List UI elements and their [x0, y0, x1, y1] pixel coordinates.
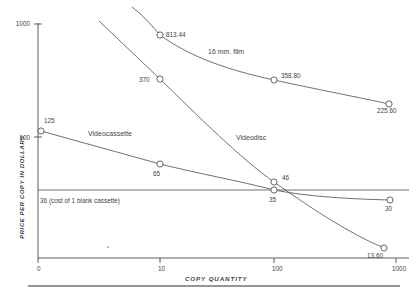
videocassette-point-10	[157, 161, 163, 167]
film-point-label-100: 358.80	[281, 72, 301, 79]
videodisc-point-label-10: 370	[139, 76, 150, 83]
x-tick-label-0: 0	[37, 265, 41, 272]
x-tick-label-1000: 1000	[392, 265, 407, 272]
videodisc-point-10	[157, 76, 163, 82]
y-axis-title: PRICE PER COPY IN DOLLARS	[19, 135, 25, 239]
videodisc-point-label-100: 46	[282, 174, 290, 181]
figure-container: 1000 100 0 10 100 1000 COPY QUANTITY PRI…	[0, 0, 417, 292]
film-point-label-1000: 225.60	[377, 107, 397, 114]
videocassette-point-label-0: 125	[44, 117, 55, 124]
videodisc-series-label: Videodisc	[236, 134, 267, 141]
axis-group	[34, 23, 409, 263]
series-videodisc: 370 46 13.60 Videodisc	[99, 21, 387, 259]
y-tick-label-1000: 1000	[16, 20, 31, 27]
videodisc-point-label-1000: 13.60	[367, 252, 383, 259]
film-point-100	[271, 77, 277, 83]
x-tick-label-10: 10	[158, 265, 166, 272]
videocassette-point-1000	[387, 197, 393, 203]
videodisc-point-100	[271, 179, 277, 185]
videocassette-point-label-1000: 30	[385, 205, 393, 212]
videocassette-point-0	[38, 128, 44, 134]
stray-speck	[107, 246, 109, 248]
film-point-label-10: 813.44	[166, 31, 186, 38]
x-axis-title: COPY QUANTITY	[185, 275, 247, 282]
film-series-label: 16 mm. film	[208, 48, 244, 55]
reference-line-label: 36 (cost of 1 blank cassette)	[40, 197, 120, 205]
series-16mm-film: 813.44 358.80 225.60 16 mm. film	[132, 7, 397, 114]
x-tick-label-100: 100	[272, 265, 283, 272]
videocassette-series-label: Videocassette	[88, 130, 132, 137]
cost-comparison-chart: 1000 100 0 10 100 1000 COPY QUANTITY PRI…	[0, 0, 417, 292]
videocassette-point-label-10: 65	[153, 170, 161, 177]
film-point-10	[157, 32, 163, 38]
videocassette-point-label-100: 35	[269, 196, 277, 203]
videocassette-point-100	[271, 187, 277, 193]
videodisc-point-1000	[381, 245, 387, 251]
